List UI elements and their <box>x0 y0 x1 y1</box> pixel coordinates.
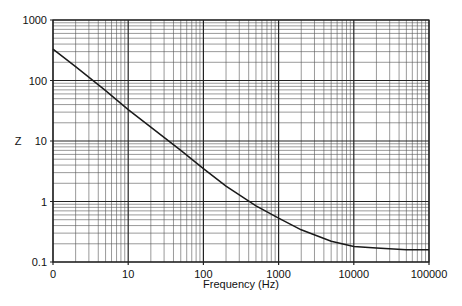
y-tick-label: 10 <box>35 135 47 147</box>
x-tick-label: 10 <box>122 268 134 280</box>
x-tick-label: 0 <box>50 268 56 280</box>
y-tick-label: 100 <box>29 75 47 87</box>
impedance-chart: 0.11101001000 010100100010000100000 Z Fr… <box>0 0 462 306</box>
y-tick-label: 1000 <box>23 14 47 26</box>
x-tick-label: 10000 <box>339 268 370 280</box>
y-tick-label: 1 <box>41 196 47 208</box>
y-axis-label: Z <box>15 135 22 147</box>
x-tick-label: 100000 <box>411 268 448 280</box>
y-tick-labels: 0.11101001000 <box>23 14 47 268</box>
x-axis-label: Frequency (Hz) <box>203 278 279 290</box>
y-tick-label: 0.1 <box>32 256 47 268</box>
